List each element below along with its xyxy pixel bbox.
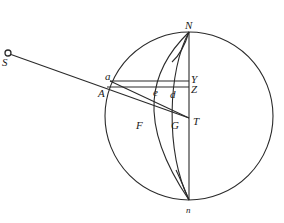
label-e: e: [153, 86, 158, 98]
curve-near-n: [176, 170, 189, 200]
label-A: A: [97, 87, 105, 99]
label-T: T: [193, 115, 200, 127]
label-G: G: [171, 119, 179, 131]
label-S: S: [2, 56, 8, 68]
label-d: d: [170, 88, 176, 100]
label-a: a: [105, 70, 111, 82]
label-n: n: [186, 205, 191, 215]
label-Z: Z: [191, 83, 198, 95]
curve-NdGn: [172, 32, 189, 200]
label-N: N: [184, 19, 193, 31]
geometry-diagram: S N n a A Y Z e d F G T: [0, 0, 284, 223]
label-F: F: [135, 119, 143, 131]
